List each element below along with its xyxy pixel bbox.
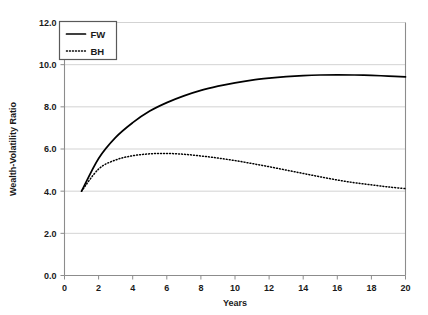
y-axis-title: Wealth-Volatility Ratio xyxy=(8,101,18,196)
y-tick-label: 8.0 xyxy=(44,102,57,112)
y-tick-label: 6.0 xyxy=(44,144,57,154)
legend-label-fw[interactable]: FW xyxy=(91,29,106,40)
legend-label-bh[interactable]: BH xyxy=(91,46,105,57)
x-tick-labels: 02468101214161820 xyxy=(62,283,411,293)
x-axis-title: Years xyxy=(223,298,247,308)
y-tick-label: 12.0 xyxy=(39,18,57,28)
series-line-fw xyxy=(82,75,406,191)
y-tick-labels: 0.02.04.06.08.010.012.0 xyxy=(39,18,57,281)
x-tick-label: 18 xyxy=(366,283,376,293)
x-tick-label: 8 xyxy=(198,283,203,293)
series-line-bh xyxy=(82,153,406,191)
x-tick-label: 20 xyxy=(400,283,410,293)
y-tick-label: 2.0 xyxy=(44,229,57,239)
x-tick-label: 14 xyxy=(298,283,308,293)
x-tick-label: 0 xyxy=(62,283,67,293)
y-tick-label: 10.0 xyxy=(39,60,57,70)
y-tick-label: 0.0 xyxy=(44,271,57,281)
x-tick-label: 10 xyxy=(230,283,240,293)
chart-legend[interactable]: FWBH xyxy=(60,22,117,60)
x-tick-label: 16 xyxy=(332,283,342,293)
line-chart: 0.02.04.06.08.010.012.0 0246810121416182… xyxy=(0,0,428,315)
x-tick-label: 4 xyxy=(130,283,135,293)
data-series xyxy=(82,75,406,191)
legend-box xyxy=(60,22,117,60)
chart-figure: 0.02.04.06.08.010.012.0 0246810121416182… xyxy=(0,0,428,315)
gridlines xyxy=(65,23,406,276)
x-tick-label: 2 xyxy=(96,283,101,293)
x-tick-label: 12 xyxy=(264,283,274,293)
x-axis xyxy=(65,276,406,280)
y-tick-label: 4.0 xyxy=(44,187,57,197)
x-tick-label: 6 xyxy=(164,283,169,293)
